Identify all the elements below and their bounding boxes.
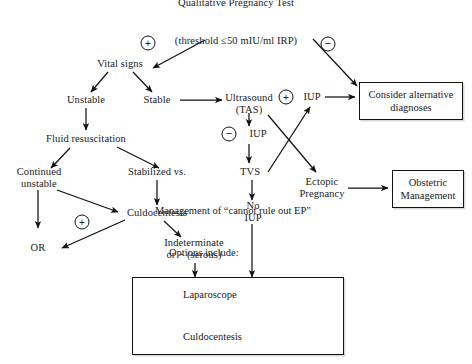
node-continued-unstable: Continued unstable bbox=[17, 166, 62, 190]
node-vital-signs: Vital signs bbox=[97, 58, 143, 70]
box-consider-alternative-diagnoses: Consider alternative diagnoses bbox=[359, 82, 463, 120]
box-obstetric-management: Obstetric Management bbox=[392, 170, 464, 208]
node-or: OR bbox=[31, 242, 46, 254]
positive-culdocentesis-badge: + bbox=[75, 215, 90, 230]
flowchart-canvas: Qualitative Pregnancy Test (threshold ≤5… bbox=[0, 0, 472, 364]
minus-icon: − bbox=[223, 127, 236, 140]
title-line-1: Qualitative Pregnancy Test bbox=[121, 0, 351, 9]
plus-icon: + bbox=[76, 216, 89, 229]
mgmt-line-4: Culdocentesis bbox=[155, 330, 312, 344]
mgmt-line-2: Options include: bbox=[155, 246, 312, 260]
node-unstable: Unstable bbox=[67, 94, 105, 106]
node-iup-tas: IUP bbox=[249, 128, 266, 140]
mgmt-line-3: Laparoscope bbox=[155, 288, 312, 302]
node-iup-positive: IUP bbox=[303, 91, 320, 103]
plus-icon: + bbox=[280, 91, 293, 104]
title-line-2: (threshold ≤50 mIU/ml IRP) bbox=[121, 35, 351, 48]
positive-pregnancy-badge: + bbox=[141, 36, 156, 51]
minus-icon: − bbox=[322, 37, 335, 50]
node-stable: Stable bbox=[144, 94, 171, 106]
plus-icon: + bbox=[142, 37, 155, 50]
node-fluid-resuscitation: Fluid resuscitation bbox=[46, 133, 126, 145]
positive-ultrasound-badge: + bbox=[279, 90, 294, 105]
box-management-cannot-rule-out-ep: Management of “cannot rule out EP” Optio… bbox=[132, 277, 344, 355]
diagram-title: Qualitative Pregnancy Test (threshold ≤5… bbox=[121, 0, 351, 72]
mgmt-line-1: Management of “cannot rule out EP” bbox=[155, 204, 312, 218]
node-ultrasound-tas: Ultrasound (TAS) bbox=[225, 92, 273, 116]
negative-ultrasound-badge: − bbox=[222, 127, 237, 142]
negative-pregnancy-badge: − bbox=[321, 37, 336, 52]
